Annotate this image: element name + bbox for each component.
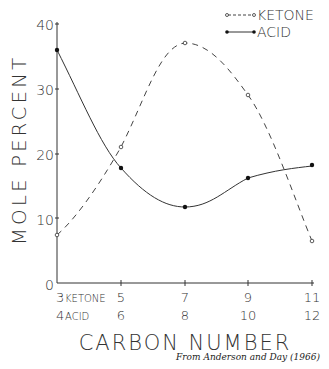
y-tick-20: 20	[36, 147, 54, 163]
y-tick-40: 40	[36, 17, 54, 33]
y-tick-30: 30	[36, 82, 54, 98]
legend-ketone-label: KETONE	[257, 7, 314, 23]
line-chart: 40 30 20 10 0 MOLE PERCENT 3 KETONE 4 AC…	[0, 0, 329, 369]
x-tick-ketone-5: 5	[117, 290, 125, 305]
ketone-series-line	[57, 43, 312, 241]
acid-series-line	[57, 50, 312, 207]
ketone-markers	[55, 41, 314, 243]
x-tick-acid-10: 10	[240, 308, 257, 323]
y-axis-label: MOLE PERCENT	[7, 55, 31, 246]
x-tick-ketone-7: 7	[181, 290, 189, 305]
source-note: From Anderson and Day (1966)	[175, 352, 320, 362]
x-tick-acid-6: 6	[117, 308, 125, 323]
x-tick-acid-8: 8	[181, 308, 189, 323]
y-ticks	[55, 24, 312, 286]
ketone-row-label: KETONE	[65, 293, 106, 304]
x-tick-ketone-11: 11	[304, 290, 321, 305]
x-tick-ketone-9: 9	[244, 290, 252, 305]
y-tick-10: 10	[36, 212, 54, 228]
legend: KETONE ACID	[225, 7, 314, 40]
x-tick-acid-12: 12	[304, 308, 321, 323]
acid-row-label: ACID	[65, 311, 89, 322]
ketone-row-prefix: 3	[56, 290, 64, 305]
y-tick-0: 0	[45, 277, 54, 293]
legend-acid-label: ACID	[257, 24, 291, 40]
y-tick-labels: 40 30 20 10 0	[36, 17, 54, 293]
acid-markers	[55, 48, 314, 209]
x-tick-labels: 3 KETONE 4 ACID 5 7 9 11 6 8 10 12	[56, 290, 320, 323]
acid-row-prefix: 4	[56, 308, 64, 323]
